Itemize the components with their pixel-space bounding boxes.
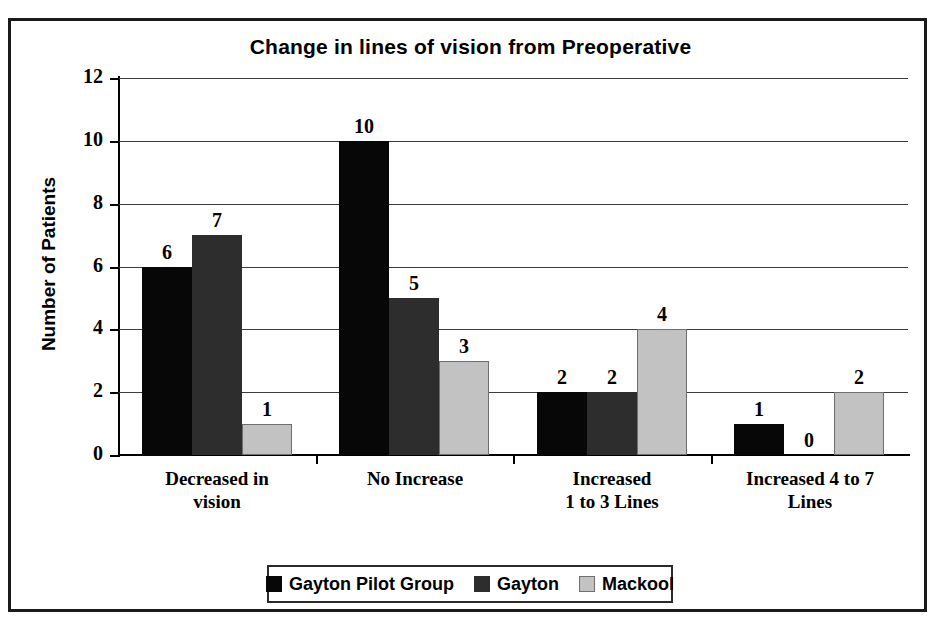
bar-value-label: 2 bbox=[587, 366, 637, 389]
y-axis-tick-mark bbox=[110, 455, 119, 457]
bar bbox=[587, 392, 637, 455]
bar bbox=[834, 392, 884, 455]
y-axis-tick-label: 6 bbox=[59, 254, 103, 277]
bar-value-label: 1 bbox=[734, 398, 784, 421]
bar bbox=[142, 267, 192, 456]
x-axis-tick-mark bbox=[513, 455, 515, 464]
legend-item[interactable]: Mackool bbox=[579, 574, 674, 595]
bar-value-label: 2 bbox=[537, 366, 587, 389]
chart-frame: Change in lines of vision from Preoperat… bbox=[8, 18, 927, 612]
category-label-line: Decreased in bbox=[104, 467, 330, 490]
x-axis-category-label: No Increase bbox=[302, 467, 528, 490]
bar bbox=[637, 329, 687, 455]
legend-label: Gayton Pilot Group bbox=[289, 574, 454, 595]
y-axis-tick-label: 0 bbox=[59, 442, 103, 465]
y-axis-title: Number of Patients bbox=[38, 154, 60, 374]
x-axis-category-label: Increased1 to 3 Lines bbox=[499, 467, 725, 513]
bar-value-label: 4 bbox=[637, 303, 687, 326]
black-square-swatch bbox=[266, 576, 282, 592]
bar-value-label: 10 bbox=[339, 115, 389, 138]
x-axis-tick-mark bbox=[316, 455, 318, 464]
bar bbox=[242, 424, 292, 455]
light-gray-square-swatch bbox=[579, 576, 595, 592]
bar-value-label: 2 bbox=[834, 366, 884, 389]
category-label-line: Lines bbox=[697, 490, 923, 513]
bar bbox=[734, 424, 784, 455]
bar-value-label: 3 bbox=[439, 335, 489, 358]
legend-label: Mackool bbox=[602, 574, 674, 595]
legend-item[interactable]: Gayton Pilot Group bbox=[266, 574, 454, 595]
dark-gray-square-swatch bbox=[474, 576, 490, 592]
bar-value-label: 0 bbox=[784, 429, 834, 452]
bar bbox=[389, 298, 439, 455]
bar bbox=[339, 141, 389, 455]
y-axis-tick-label: 12 bbox=[59, 65, 103, 88]
x-axis-tick-mark bbox=[711, 455, 713, 464]
bar bbox=[192, 235, 242, 455]
category-label-line: Increased bbox=[499, 467, 725, 490]
y-axis-tick-label: 2 bbox=[59, 379, 103, 402]
legend-item[interactable]: Gayton bbox=[474, 574, 559, 595]
chart-title: Change in lines of vision from Preoperat… bbox=[11, 35, 930, 59]
legend-label: Gayton bbox=[497, 574, 559, 595]
y-axis-tick-label: 4 bbox=[59, 316, 103, 339]
category-label-line: vision bbox=[104, 490, 330, 513]
bar-value-label: 1 bbox=[242, 398, 292, 421]
x-axis-category-label: Increased 4 to 7Lines bbox=[697, 467, 923, 513]
category-label-line: No Increase bbox=[302, 467, 528, 490]
y-axis-tick-label: 8 bbox=[59, 191, 103, 214]
x-axis-category-label: Decreased invision bbox=[104, 467, 330, 513]
category-label-line: 1 to 3 Lines bbox=[499, 490, 725, 513]
bar-value-label: 7 bbox=[192, 209, 242, 232]
category-label-line: Increased 4 to 7 bbox=[697, 467, 923, 490]
chart-legend: Gayton Pilot GroupGaytonMackool bbox=[267, 565, 673, 603]
bar bbox=[537, 392, 587, 455]
bar bbox=[439, 361, 489, 455]
bar-value-label: 5 bbox=[389, 272, 439, 295]
bar-value-label: 6 bbox=[142, 241, 192, 264]
y-axis-tick-label: 10 bbox=[59, 128, 103, 151]
